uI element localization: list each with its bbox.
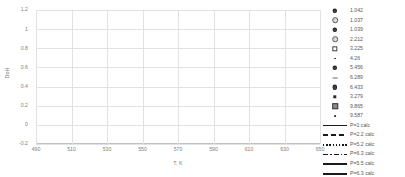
legend-label: 4.26: [350, 55, 360, 61]
solid-line-icon: [323, 125, 347, 127]
open-square-icon: [332, 46, 337, 51]
legend-line-icon: [322, 140, 348, 150]
gridline: [107, 10, 108, 144]
x-tick-label: 610: [245, 146, 254, 152]
legend-label: 1.037: [350, 17, 363, 23]
gridline: [214, 10, 215, 144]
filled-circle-icon: [333, 9, 336, 12]
y-tick-label: 0.8: [21, 46, 28, 51]
legend-label: P=6.3 calc: [350, 170, 374, 176]
legend-item-P-6-3-calc[interactable]: P=6.3 calc: [322, 168, 402, 177]
legend-item-2.212[interactable]: 2.212: [322, 35, 402, 45]
filled-circle-icon: [333, 85, 336, 88]
legend-label: 9.865: [350, 103, 363, 109]
legend-item-5.456[interactable]: 5.456: [322, 63, 402, 73]
legend-item-P-5-2-calc[interactable]: P=5.2 calc: [322, 140, 402, 150]
dashdot-line-icon: [323, 154, 347, 156]
legend-marker-icon: [322, 63, 348, 73]
dash-icon: [333, 77, 338, 78]
legend-marker-icon: [322, 25, 348, 35]
legend-label: 3.225: [350, 45, 363, 51]
filled-circle-icon: [333, 28, 336, 31]
legend-label: P=5.5 calc: [350, 160, 374, 166]
legend-item-6.433[interactable]: 6.433: [322, 82, 402, 92]
legend-label: 6.433: [350, 84, 363, 90]
legend-marker-icon: [322, 16, 348, 26]
x-tick-label: 530: [103, 146, 112, 152]
legend-item-9.865[interactable]: 9.865: [322, 102, 402, 112]
legend-marker-icon: [322, 111, 348, 121]
legend-item-P-2-2-calc[interactable]: P=2.2 calc: [322, 130, 402, 140]
legend-label: 1.042: [350, 7, 363, 13]
dashed-line-icon: [323, 134, 347, 136]
gridline: [72, 10, 73, 144]
plot-area: [36, 10, 320, 144]
legend-label: 5.456: [350, 64, 363, 70]
legend-label: P=2.2 calc: [350, 131, 374, 137]
legend-item-3.225[interactable]: 3.225: [322, 44, 402, 54]
gridline: [178, 10, 179, 144]
legend-item-1.037[interactable]: 1.037: [322, 16, 402, 26]
chart-screenshot: 1.210.80.60.40.20-0.2 DoH 49051053055057…: [0, 0, 405, 177]
y-tick-label: 0.6: [21, 65, 28, 70]
gridline: [320, 10, 321, 144]
filled-square-icon: [333, 95, 336, 98]
legend-label: P=6.3 calc: [350, 150, 374, 156]
legend-item-1.039[interactable]: 1.039: [322, 25, 402, 35]
legend-item-4.26[interactable]: 4.26: [322, 54, 402, 64]
legend-line-icon: [322, 121, 348, 131]
y-tick-label: 0.4: [21, 84, 28, 89]
legend-marker-icon: [322, 6, 348, 16]
legend-item-9.587[interactable]: 9.587: [322, 111, 402, 121]
legend-line-icon: [322, 149, 348, 159]
thick-line-icon: [323, 173, 347, 175]
x-tick-label: 570: [174, 146, 183, 152]
legend-line-icon: [322, 159, 348, 169]
legend-label: P=5.2 calc: [350, 141, 374, 147]
gridline: [36, 144, 320, 145]
legend-label: P=1 calc: [350, 122, 370, 128]
x-tick-label: 550: [138, 146, 147, 152]
legend-item-3.279[interactable]: 3.279: [322, 92, 402, 102]
legend-marker-icon: [322, 44, 348, 54]
legend-marker-icon: [322, 35, 348, 45]
legend-label: 3.279: [350, 93, 363, 99]
thick-line-icon: [323, 163, 347, 165]
legend-marker-icon: [322, 82, 348, 92]
y-tick-label: -0.2: [19, 141, 28, 146]
dotted-line-icon: [323, 144, 347, 146]
legend-label: 6.289: [350, 74, 363, 80]
x-tick-label: 590: [209, 146, 218, 152]
gridline: [143, 10, 144, 144]
legend-item-6.289[interactable]: 6.289: [322, 73, 402, 83]
y-tick-label: 1.2: [21, 7, 28, 12]
x-axis-title: T, K: [36, 160, 320, 166]
legend-marker-icon: [322, 54, 348, 64]
y-tick-label: 0: [25, 122, 28, 127]
chart-legend: 1.0421.0371.0392.2123.2254.265.4566.2896…: [322, 6, 402, 171]
legend-label: 2.212: [350, 36, 363, 42]
small-dot-icon: [334, 115, 336, 117]
legend-line-icon: [322, 168, 348, 177]
filled-circle-icon: [333, 66, 336, 69]
x-tick-label: 630: [280, 146, 289, 152]
ring-circle-icon: [332, 37, 338, 43]
legend-item-P-1-calc[interactable]: P=1 calc: [322, 121, 402, 131]
legend-item-1.042[interactable]: 1.042: [322, 6, 402, 16]
small-dot-icon: [334, 58, 336, 60]
legend-item-P-5-5-calc[interactable]: P=5.5 calc: [322, 159, 402, 169]
x-tick-label: 510: [67, 146, 76, 152]
x-axis-tick-labels: 490510530550570590610630650: [36, 146, 320, 156]
gridline: [285, 10, 286, 144]
x-tick-label: 490: [32, 146, 41, 152]
gray-square-icon: [332, 104, 338, 110]
y-tick-label: 0.2: [21, 103, 28, 108]
gridline: [36, 10, 37, 144]
legend-label: 9.587: [350, 112, 363, 118]
y-tick-label: 1: [25, 27, 28, 32]
ring-circle-icon: [332, 18, 338, 24]
legend-item-P-6-3-calc[interactable]: P=6.3 calc: [322, 149, 402, 159]
legend-label: 1.039: [350, 26, 363, 32]
legend-marker-icon: [322, 92, 348, 102]
gridline: [249, 10, 250, 144]
